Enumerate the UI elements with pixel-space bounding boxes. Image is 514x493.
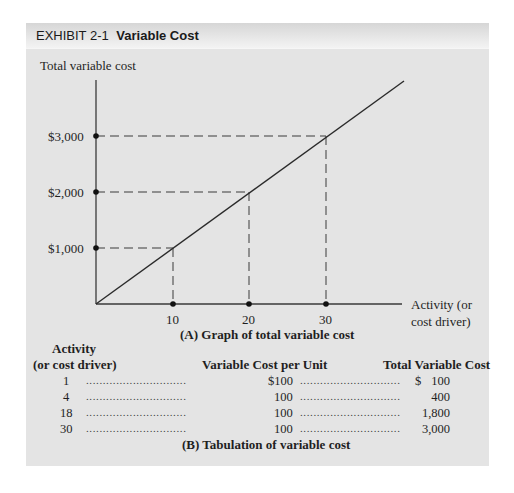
table-row: 4 .............................. 100 ...…: [0, 390, 514, 406]
x-axis-label-line2: cost driver): [411, 314, 471, 330]
col-total-cost-header: Total Variable Cost: [383, 357, 490, 373]
unit-cost-value: $100: [268, 374, 293, 389]
total-cost-value: 100: [431, 374, 450, 389]
table-caption: (B) Tabulation of variable cost: [182, 437, 350, 453]
activity-value: 30: [60, 422, 73, 437]
col-activity-header-line1: Activity: [52, 341, 96, 357]
unit-cost-value: 100: [274, 406, 293, 421]
col-activity-header-line2: (or cost driver): [33, 357, 117, 373]
dot-leader: ..............................: [86, 422, 264, 434]
y-tick-2000: $2,000: [48, 185, 84, 201]
total-cost-value: 1,800: [422, 406, 450, 421]
dot-leader: ..............................: [300, 406, 432, 418]
dot-leader: ..............................: [300, 422, 432, 434]
total-cost-value: 400: [431, 390, 450, 405]
y-tick-3000: $3,000: [48, 129, 84, 145]
unit-cost-value: 100: [274, 422, 293, 437]
x-tick-10: 10: [166, 312, 179, 328]
y-tick-1000: $1,000: [48, 241, 84, 257]
dot-leader: ..............................: [86, 406, 264, 418]
activity-value: 18: [60, 406, 73, 421]
x-tick-20: 20: [242, 312, 255, 328]
graph-caption: (A) Graph of total variable cost: [180, 327, 354, 343]
total-prefix: $: [415, 374, 421, 389]
x-tick-30: 30: [319, 312, 332, 328]
dot-leader: ..............................: [300, 374, 450, 386]
dot-leader: ..............................: [86, 390, 264, 402]
table-row: 1 .............................. $100 ..…: [0, 374, 514, 390]
x-axis-label-line1: Activity (or: [411, 297, 472, 313]
col-unit-cost-header: Variable Cost per Unit: [202, 357, 327, 373]
dot-leader: ..............................: [86, 374, 268, 386]
table-row: 30 .............................. 100 ..…: [0, 422, 514, 438]
unit-cost-value: 100: [274, 390, 293, 405]
table-row: 18 .............................. 100 ..…: [0, 406, 514, 422]
activity-value: 4: [63, 390, 69, 405]
activity-value: 1: [63, 374, 69, 389]
total-cost-value: 3,000: [422, 422, 450, 437]
dot-leader: ..............................: [300, 390, 440, 402]
